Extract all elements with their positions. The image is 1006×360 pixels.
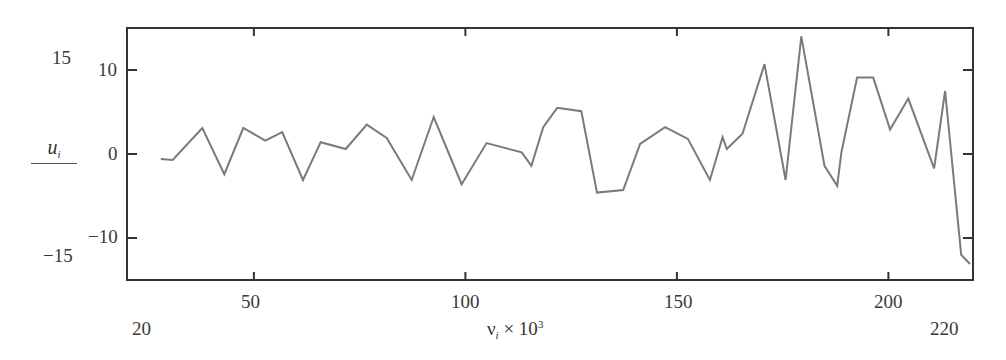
y-axis-label-underline	[31, 163, 77, 164]
x-axis-label: νi × 103	[487, 318, 543, 341]
x-outer-min-label: 20	[132, 318, 151, 340]
y-tick-label-0: 0	[108, 143, 118, 165]
y-axis-label-name: u	[47, 136, 57, 158]
data-series-line	[161, 36, 970, 264]
x-outer-max-label: 220	[930, 318, 959, 340]
x-axis-label-scale: × 10	[499, 318, 538, 339]
y-outer-max-label: 15	[52, 47, 71, 69]
line-chart	[0, 0, 1006, 360]
plot-frame	[127, 28, 973, 280]
x-axis-label-name: ν	[487, 318, 496, 339]
series-polyline	[161, 36, 970, 264]
y-tick-label-minus-10: −10	[88, 226, 118, 248]
y-tick-label-10: 10	[98, 59, 117, 81]
axis-ticks	[127, 28, 973, 280]
x-tick-label-150: 150	[664, 291, 693, 313]
x-tick-label-50: 50	[241, 291, 260, 313]
x-axis-label-exponent: 3	[538, 318, 544, 330]
y-axis-label: ui	[30, 136, 78, 164]
x-tick-label-100: 100	[451, 291, 480, 313]
x-tick-label-200: 200	[874, 291, 903, 313]
y-axis-label-subscript: i	[57, 148, 60, 160]
y-outer-min-label: −15	[43, 245, 73, 267]
